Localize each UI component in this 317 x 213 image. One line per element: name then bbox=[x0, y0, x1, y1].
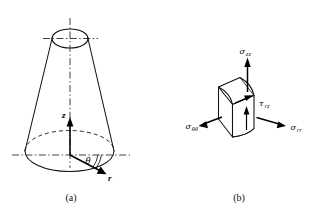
sigma-rr-arrowhead bbox=[277, 121, 286, 128]
tau-rz-label-group: τ rz bbox=[259, 99, 270, 109]
panel-a-cone: z θ r (a) bbox=[12, 18, 130, 204]
cone-right-generatrix bbox=[88, 37, 114, 151]
theta-axis-label: θ bbox=[86, 156, 91, 166]
sigma-theta-symbol: σ bbox=[186, 122, 192, 131]
caption-b: (b) bbox=[233, 192, 245, 204]
panel-b-stress-element: σ zz σ θθ σ rr τ rz bbox=[186, 47, 303, 204]
cone-left-generatrix bbox=[25, 37, 52, 151]
sigma-zz-subscript: zz bbox=[245, 51, 252, 57]
caption-a: (a) bbox=[65, 192, 76, 204]
r-axis-label: r bbox=[108, 173, 112, 183]
tau-rz-subscript: rz bbox=[265, 103, 270, 109]
sigma-zz-arrowhead bbox=[244, 58, 250, 68]
tau-rz-symbol: τ bbox=[259, 99, 264, 108]
sigma-rr-label-group: σ rr bbox=[291, 123, 303, 133]
figure-canvas: z θ r (a) σ zz bbox=[0, 0, 317, 213]
sigma-zz-label-group: σ zz bbox=[240, 47, 252, 57]
sigma-rr-arrow-shaft bbox=[257, 118, 282, 125]
z-axis-arrowhead bbox=[67, 117, 74, 127]
sigma-zz-symbol: σ bbox=[240, 47, 246, 56]
sigma-theta-subscript: θθ bbox=[192, 126, 199, 132]
sigma-theta-label-group: σ θθ bbox=[186, 122, 199, 132]
sigma-rr-subscript: rr bbox=[297, 127, 302, 133]
sigma-rr-symbol: σ bbox=[291, 123, 297, 132]
theta-angle-arc bbox=[93, 155, 98, 167]
z-axis-label: z bbox=[61, 110, 66, 120]
figure-root: z θ r (a) σ zz bbox=[0, 0, 317, 213]
